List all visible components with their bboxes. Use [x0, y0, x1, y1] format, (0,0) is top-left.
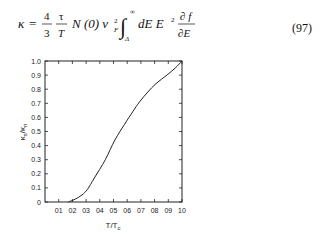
data-curve [68, 61, 182, 202]
x-tick-label: 01 [55, 207, 63, 214]
plot-frame [45, 61, 182, 202]
x-tick-label: 03 [82, 207, 90, 214]
equation-97: κ = 4 3 τ T N (0) v F 2 ∫ ∞ Δ dE E 2 ∂ f… [18, 4, 318, 48]
y-tick-label: 0.5 [31, 128, 41, 135]
frac2-num: τ [59, 10, 64, 22]
x-tick-label: 04 [96, 207, 104, 214]
x-tick-label: 07 [137, 207, 145, 214]
y-tick-label: 0.2 [31, 170, 41, 177]
y-tick-label: 0.1 [31, 184, 41, 191]
deriv-den: ∂E [178, 27, 190, 39]
kappa-symbol: κ [18, 16, 25, 31]
x-tick-label: 05 [110, 207, 118, 214]
subscript-F: F [113, 26, 119, 34]
equals-sign: = [29, 16, 36, 31]
integral-upper: ∞ [130, 8, 135, 16]
y-tick-label: 1.0 [31, 58, 41, 65]
frac1-num: 4 [44, 10, 50, 22]
x-tick-label: 06 [123, 207, 131, 214]
frac2-den: T [58, 27, 65, 39]
y-axis-ticks: 00.10.20.30.40.50.60.70.80.91.0 [31, 58, 182, 206]
x-tick-label: 08 [151, 207, 159, 214]
y-tick-label: 0 [37, 199, 41, 206]
integrand: dE E [138, 16, 164, 31]
deriv-num: ∂ f [180, 10, 193, 22]
equation-formula: κ = 4 3 τ T N (0) v F 2 ∫ ∞ Δ dE E 2 ∂ f… [18, 4, 318, 48]
y-tick-label: 0.4 [31, 142, 41, 149]
y-tick-label: 0.6 [31, 114, 41, 121]
frac1-den: 3 [44, 27, 50, 39]
integrand-superscript: 2 [171, 16, 175, 24]
kappa-ratio-chart: 00.10.20.30.40.50.60.70.80.91.0 01020304… [0, 50, 323, 238]
y-tick-label: 0.8 [31, 86, 41, 93]
y-tick-label: 0.9 [31, 72, 41, 79]
superscript-2: 2 [114, 17, 118, 25]
integral-lower: Δ [124, 35, 129, 43]
x-axis-label: T/Tc [106, 221, 121, 231]
x-tick-label: 02 [69, 207, 77, 214]
x-tick-label: 10 [178, 207, 186, 214]
y-tick-label: 0.7 [31, 100, 41, 107]
term-NOv: N (0) v [71, 16, 108, 31]
equation-number: (97) [292, 21, 312, 36]
x-tick-label: 09 [164, 207, 172, 214]
y-tick-label: 0.3 [31, 156, 41, 163]
x-axis-ticks: 01020304050607080910 [55, 61, 186, 214]
y-axis-label: κs/κn [18, 124, 28, 141]
